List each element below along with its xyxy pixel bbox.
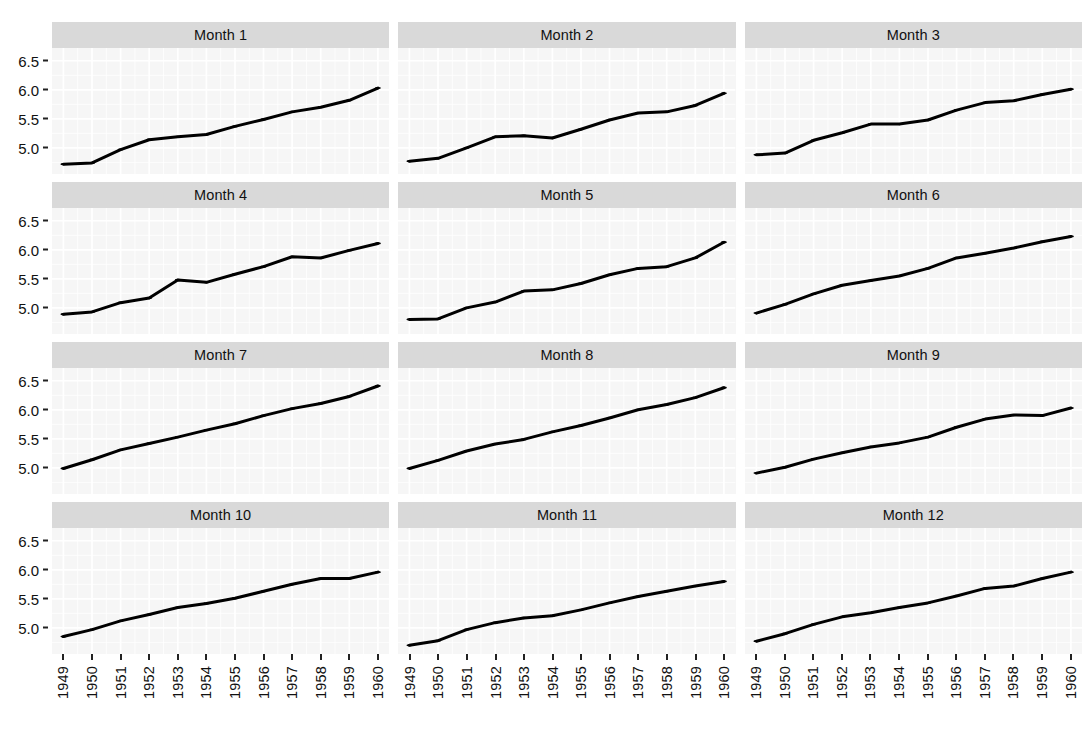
x-axis-tick-mark	[148, 654, 150, 660]
x-axis-tick: 1960	[1063, 654, 1079, 699]
x-axis-tick: 1956	[602, 654, 618, 699]
x-axis-tick: 1958	[1005, 654, 1021, 699]
y-axis-tick-label: 5.0	[18, 619, 39, 636]
y-axis-tick-mark	[43, 89, 48, 91]
x-axis-tick: 1956	[256, 654, 272, 699]
facet-strip-label: Month 8	[540, 347, 593, 363]
x-axis-tick-label: 1960	[716, 666, 732, 699]
x-axis-tick: 1949	[748, 654, 764, 699]
x-axis-tick: 1958	[313, 654, 329, 699]
x-axis-tick-mark	[320, 654, 322, 660]
facet-panel-2: Month 2	[398, 22, 735, 174]
facet-strip-7: Month 7	[52, 342, 389, 368]
plot-area-1	[52, 48, 389, 174]
facet-strip-1: Month 1	[52, 22, 389, 48]
plot-area-7	[52, 368, 389, 494]
x-axis-tick: 1952	[834, 654, 850, 699]
y-axis-tick-mark	[43, 438, 48, 440]
plot-area-2	[398, 48, 735, 174]
x-axis-tick-mark	[1012, 654, 1014, 660]
facet-strip-label: Month 4	[194, 187, 247, 203]
y-axis-tick-mark	[43, 249, 48, 251]
y-axis-tick-label: 5.5	[18, 590, 39, 607]
facet-strip-4: Month 4	[52, 182, 389, 208]
x-axis-tick-mark	[177, 654, 179, 660]
plot-area-11	[398, 528, 735, 654]
y-axis-tick: 6.0	[18, 401, 48, 418]
x-axis-tick-label: 1960	[1063, 666, 1079, 699]
y-axis-tick-mark	[43, 467, 48, 469]
x-axis-tick-mark	[955, 654, 957, 660]
y-axis-tick: 6.0	[18, 561, 48, 578]
y-axis-row-1: 5.05.56.06.5	[0, 22, 52, 174]
y-axis-tick-mark	[43, 147, 48, 149]
x-axis-tick-mark	[869, 654, 871, 660]
y-axis-tick-label: 6.0	[18, 401, 39, 418]
plot-area-3	[745, 48, 1082, 174]
x-axis-tick-mark	[552, 654, 554, 660]
x-axis-tick-label: 1949	[402, 666, 418, 699]
x-axis-tick-label: 1951	[113, 666, 129, 699]
x-axis-tick-mark	[723, 654, 725, 660]
y-axis-tick-label: 6.0	[18, 81, 39, 98]
y-axis-tick: 5.0	[18, 459, 48, 476]
y-axis-tick-mark	[43, 307, 48, 309]
x-axis-tick: 1953	[170, 654, 186, 699]
x-axis-tick-mark	[695, 654, 697, 660]
x-axis-tick-label: 1951	[805, 666, 821, 699]
x-axis-tick-mark	[1070, 654, 1072, 660]
plot-area-4	[52, 208, 389, 334]
x-axis-tick: 1952	[141, 654, 157, 699]
facet-panel-4: Month 4	[52, 182, 389, 334]
x-axis-col-2: 1949195019511952195319541955195619571958…	[398, 654, 735, 742]
x-axis-tick: 1954	[891, 654, 907, 699]
x-axis-tick-label: 1956	[948, 666, 964, 699]
x-axis-tick: 1950	[777, 654, 793, 699]
top-spacer	[52, 0, 1082, 22]
facet-strip-label: Month 5	[540, 187, 593, 203]
facet-panel-11: Month 11	[398, 502, 735, 654]
x-axis-tick-mark	[609, 654, 611, 660]
x-axis-tick-mark	[666, 654, 668, 660]
col-gap-2	[736, 654, 745, 742]
y-axis-tick-label: 5.0	[18, 139, 39, 156]
y-axis-tick-label: 5.5	[18, 430, 39, 447]
facet-strip-label: Month 12	[883, 507, 944, 523]
x-axis-tick: 1959	[688, 654, 704, 699]
x-axis-tick-label: 1952	[488, 666, 504, 699]
x-axis-tick: 1951	[805, 654, 821, 699]
x-axis-tick-mark	[898, 654, 900, 660]
y-axis-tick-label: 6.5	[18, 52, 39, 69]
facet-strip-label: Month 7	[194, 347, 247, 363]
x-axis-tick-mark	[234, 654, 236, 660]
x-axis-col-3: 1949195019511952195319541955195619571958…	[745, 654, 1082, 742]
x-axis-tick-label: 1952	[834, 666, 850, 699]
y-axis-tick-mark	[43, 569, 48, 571]
y-axis-tick-label: 5.5	[18, 110, 39, 127]
x-axis-tick-mark	[91, 654, 93, 660]
x-axis-tick: 1950	[430, 654, 446, 699]
x-axis-tick-label: 1950	[777, 666, 793, 699]
facet-strip-label: Month 9	[887, 347, 940, 363]
x-axis-tick-mark	[263, 654, 265, 660]
y-axis-tick-label: 6.5	[18, 212, 39, 229]
x-axis-tick-label: 1957	[284, 666, 300, 699]
top-left-spacer	[0, 0, 52, 22]
x-axis-tick-label: 1949	[55, 666, 71, 699]
y-axis-tick: 5.5	[18, 430, 48, 447]
y-axis-tick: 6.0	[18, 81, 48, 98]
y-axis-tick: 6.5	[18, 212, 48, 229]
facet-panel-6: Month 6	[745, 182, 1082, 334]
plot-area-8	[398, 368, 735, 494]
x-axis-tick-mark	[466, 654, 468, 660]
x-axis-tick: 1949	[402, 654, 418, 699]
x-axis-tick-label: 1954	[198, 666, 214, 699]
x-axis-tick: 1960	[716, 654, 732, 699]
x-axis-tick: 1958	[659, 654, 675, 699]
x-axis-tick-label: 1950	[430, 666, 446, 699]
faceted-line-chart: 5.05.56.06.5 5.05.56.06.5 5.05.56.06.5 5…	[0, 0, 1082, 742]
facet-strip-label: Month 6	[887, 187, 940, 203]
x-axis-tick-label: 1953	[170, 666, 186, 699]
facet-panel-7: Month 7	[52, 342, 389, 494]
facet-panel-5: Month 5	[398, 182, 735, 334]
